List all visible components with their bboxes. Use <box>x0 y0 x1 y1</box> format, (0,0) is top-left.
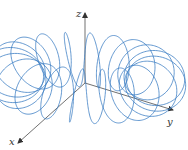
z-axis-label: z <box>75 8 82 19</box>
x-axis-label: x <box>9 136 15 147</box>
y-axis-label: y <box>166 116 173 127</box>
toroidal-spiral-diagram: z y x <box>0 0 188 150</box>
toroidal-spiral-curve <box>0 32 186 123</box>
